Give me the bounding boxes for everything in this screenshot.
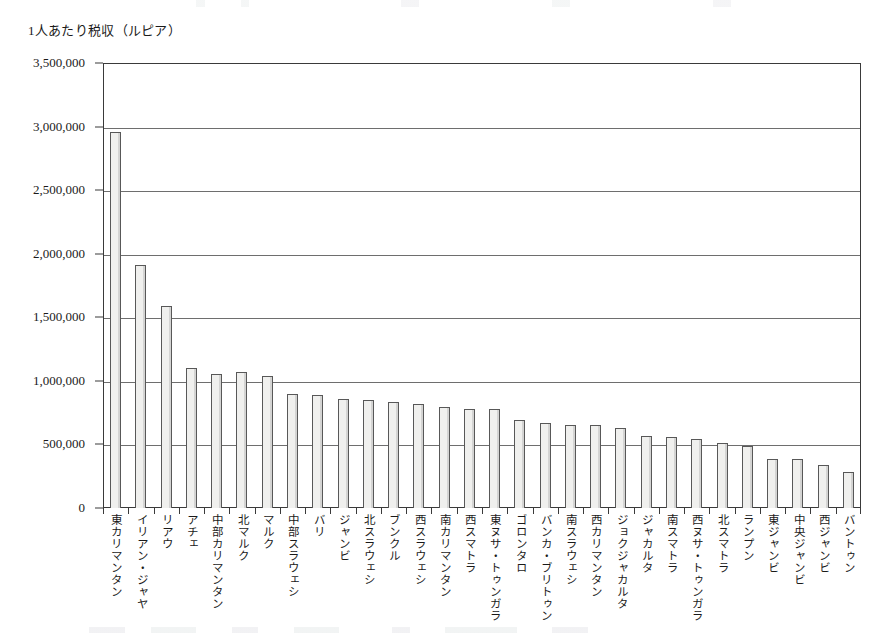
bar-slot <box>381 63 406 508</box>
bar <box>363 400 374 508</box>
y-axis-tick-label: 0 <box>79 500 86 516</box>
x-axis-label-cell: 西ヌサ・トゥンガラ <box>684 514 709 624</box>
bar <box>641 436 652 508</box>
bar <box>615 428 626 508</box>
y-axis-tickmark <box>95 63 103 64</box>
y-axis-tick-label: 1,000,000 <box>33 373 85 389</box>
x-axis-category-label: ジャカルタ <box>640 514 652 574</box>
bar <box>843 472 854 508</box>
bar <box>338 399 349 508</box>
y-axis-tickmark <box>95 508 103 509</box>
x-axis-category-label: ジョクジャカルタ <box>615 514 627 610</box>
x-axis-label-cell: 南スマトラ <box>659 514 684 624</box>
x-axis-category-label: 西ジャンビ <box>817 514 829 574</box>
bar-slot <box>330 63 355 508</box>
bar-slot <box>457 63 482 508</box>
bar-slot <box>229 63 254 508</box>
bar-slot <box>810 63 835 508</box>
x-axis-label-cell: 西スマトラ <box>457 514 482 624</box>
y-axis-tick-label: 1,500,000 <box>33 309 85 325</box>
x-axis-label-cell: ゴロンタロ <box>507 514 532 624</box>
bar-slot <box>709 63 734 508</box>
x-axis-label-cell: 北マルク <box>229 514 254 624</box>
bar <box>590 425 601 508</box>
y-axis-tickmark <box>95 380 103 381</box>
y-axis-tick-label: 2,500,000 <box>33 182 85 198</box>
bar-slot <box>634 63 659 508</box>
bar <box>666 437 677 508</box>
bar-slot <box>431 63 456 508</box>
x-axis-label-cell: 中部カリマンタン <box>204 514 229 624</box>
x-axis-label-cell: バントゥン <box>836 514 861 624</box>
bar <box>312 395 323 508</box>
bar <box>565 425 576 508</box>
x-axis-label-cell: 南スラウェシ <box>558 514 583 624</box>
bar-slot <box>154 63 179 508</box>
x-axis-label-cell: 中部スラウェシ <box>280 514 305 624</box>
y-axis-tick-label: 500,000 <box>43 436 85 452</box>
x-axis-category-label: ジャンビ <box>337 514 349 562</box>
x-axis-label-cell: ジョクジャカルタ <box>608 514 633 624</box>
x-axis-label-cell: ランプン <box>735 514 760 624</box>
y-axis-tickmark <box>95 253 103 254</box>
bar <box>287 394 298 508</box>
y-axis-tickmark <box>95 126 103 127</box>
x-axis-category-label: 北スマトラ <box>716 514 728 574</box>
bar-slot <box>255 63 280 508</box>
x-axis-label-cell: 中央ジャンビ <box>785 514 810 624</box>
scan-artifact-bottom <box>0 627 891 633</box>
x-axis-category-label: 中部スラウェシ <box>287 514 299 598</box>
x-axis-category-label: 南スラウェシ <box>565 514 577 586</box>
bar-slot <box>482 63 507 508</box>
x-axis-category-label: 北マルク <box>236 514 248 562</box>
bar <box>211 374 222 508</box>
x-axis-category-label: 西スラウェシ <box>413 514 425 586</box>
x-axis-label-cell: 北スラウェシ <box>356 514 381 624</box>
x-axis-category-label: バンカ・ブリトゥン <box>539 514 551 622</box>
bar-slot <box>836 63 861 508</box>
x-axis-category-label: バリ <box>312 514 324 538</box>
x-axis-label-cell: 東ヌサ・トゥンガラ <box>482 514 507 624</box>
bar-slot <box>356 63 381 508</box>
bar <box>262 376 273 508</box>
x-axis-label-cell: 北スマトラ <box>709 514 734 624</box>
x-axis-category-label: 西ヌサ・トゥンガラ <box>691 514 703 622</box>
bar-slot <box>128 63 153 508</box>
x-axis-category-label: 東カリマンタン <box>110 514 122 598</box>
x-axis-category-label: アチェ <box>186 514 198 550</box>
chart-page: 1人あたり税収（ルピア） 3,500,0003,000,0002,500,000… <box>0 0 891 633</box>
x-axis-label-cell: ジャンビ <box>330 514 355 624</box>
x-axis-category-label: 南カリマンタン <box>438 514 450 598</box>
bar-slot <box>507 63 532 508</box>
x-axis-category-label: 北スラウェシ <box>363 514 375 586</box>
bar-slot <box>558 63 583 508</box>
x-axis-label-cell: バンカ・ブリトゥン <box>533 514 558 624</box>
y-axis-tick-label: 3,500,000 <box>33 55 85 71</box>
bar <box>236 372 247 508</box>
bar <box>388 402 399 508</box>
bar <box>110 132 121 508</box>
bar-slot <box>583 63 608 508</box>
bar <box>818 465 829 508</box>
x-axis-label-cell: 東カリマンタン <box>103 514 128 624</box>
y-axis-caption: 1人あたり税収（ルピア） <box>28 20 181 39</box>
bar-slot <box>103 63 128 508</box>
x-axis-category-label: ゴロンタロ <box>514 514 526 574</box>
bar <box>767 459 778 508</box>
bar <box>742 446 753 508</box>
x-axis-label-cell: ブンクル <box>381 514 406 624</box>
x-axis-label-cell: リアウ <box>154 514 179 624</box>
bar-slot <box>406 63 431 508</box>
x-axis-label-cell: バリ <box>305 514 330 624</box>
x-axis-category-label: マルク <box>261 514 273 550</box>
x-axis-category-label: 西スマトラ <box>464 514 476 574</box>
x-axis-category-label: 東ジャンビ <box>767 514 779 574</box>
bar <box>135 265 146 508</box>
x-axis-label-cell: アチェ <box>179 514 204 624</box>
bar <box>489 409 500 508</box>
bar-slot <box>533 63 558 508</box>
x-axis-label-cell: 南カリマンタン <box>431 514 456 624</box>
bar <box>186 368 197 508</box>
x-axis-label-cell: 東ジャンビ <box>760 514 785 624</box>
y-axis-tickmark <box>95 317 103 318</box>
